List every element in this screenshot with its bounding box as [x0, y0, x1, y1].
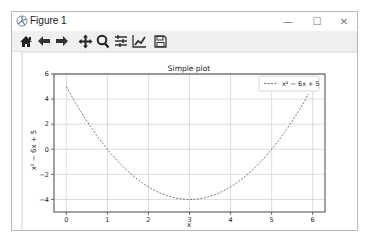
- window-title: Figure 1: [30, 15, 67, 26]
- x-axis-label: x: [187, 221, 191, 229]
- y-tick-label: 0: [45, 146, 49, 154]
- x-tick-label: 1: [105, 216, 109, 224]
- forward-button[interactable]: [54, 33, 70, 49]
- y-tick-label: 2: [45, 120, 49, 128]
- arrow-left-icon: [37, 35, 51, 47]
- floppy-disk-icon: [154, 35, 167, 48]
- close-button[interactable]: ✕: [332, 14, 356, 29]
- magnifier-icon: [96, 34, 110, 49]
- grid-lines: [54, 74, 325, 212]
- x-tick-label: 5: [270, 216, 274, 224]
- y-axis-label: x² − 6x + 5: [30, 130, 38, 171]
- move-icon: [78, 34, 93, 49]
- matplotlib-logo-icon: [16, 15, 28, 27]
- x-tick-label: 4: [228, 216, 232, 224]
- maximize-button[interactable]: ☐: [305, 14, 329, 29]
- data-line: [66, 87, 308, 200]
- edit-axis-button[interactable]: [131, 33, 147, 49]
- legend: x² − 6x + 5: [259, 76, 320, 91]
- x-tick-label: 6: [311, 216, 315, 224]
- save-button[interactable]: [152, 33, 168, 49]
- x-tick-label: 0: [64, 216, 68, 224]
- plot-area[interactable]: 0123456 −4−20246 Simple plot x x² − 6x +…: [12, 52, 357, 230]
- y-tick-label: 4: [45, 95, 49, 103]
- y-tick-label: −4: [39, 196, 49, 204]
- home-icon: [19, 35, 33, 48]
- y-tick-label: −2: [39, 171, 49, 179]
- pan-button[interactable]: [77, 33, 93, 49]
- sliders-icon: [114, 34, 128, 48]
- zoom-button[interactable]: [95, 33, 111, 49]
- figure-window: Figure 1 — ☐ ✕: [11, 11, 358, 231]
- subplots-button[interactable]: [113, 33, 129, 49]
- chart-title: Simple plot: [168, 64, 210, 73]
- minimize-button[interactable]: —: [276, 14, 300, 29]
- y-tick-label: 6: [45, 70, 49, 78]
- title-bar[interactable]: Figure 1 — ☐ ✕: [12, 12, 357, 31]
- arrow-right-icon: [55, 35, 69, 47]
- legend-label: x² − 6x + 5: [282, 80, 320, 88]
- home-button[interactable]: [18, 33, 34, 49]
- figure-canvas[interactable]: 0123456 −4−20246 Simple plot x x² − 6x +…: [12, 52, 357, 230]
- y-axis-ticks: −4−20246: [39, 70, 54, 203]
- navigation-toolbar: [12, 31, 357, 52]
- x-tick-label: 2: [146, 216, 150, 224]
- line-chart-icon: [132, 34, 147, 48]
- back-button[interactable]: [36, 33, 52, 49]
